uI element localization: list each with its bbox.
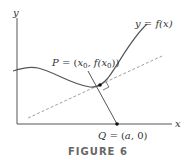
right-angle-marker (103, 82, 109, 90)
x-axis-label: x (175, 118, 181, 129)
point-q (115, 122, 119, 126)
normal-line (88, 71, 117, 124)
y-axis-label: y (12, 7, 19, 18)
figure-caption: FIGURE 6 (68, 146, 128, 157)
curve-label: y = f(x) (134, 18, 173, 29)
figure-6-diagram: y x y = f(x) P = (x0, f(x0)) Q = (a, 0) … (0, 0, 193, 160)
point-p-label: P = (x0, f(x0)) (51, 57, 119, 70)
point-p (98, 83, 102, 87)
point-q-label: Q = (a, 0) (98, 130, 148, 141)
curve-f (13, 24, 147, 87)
